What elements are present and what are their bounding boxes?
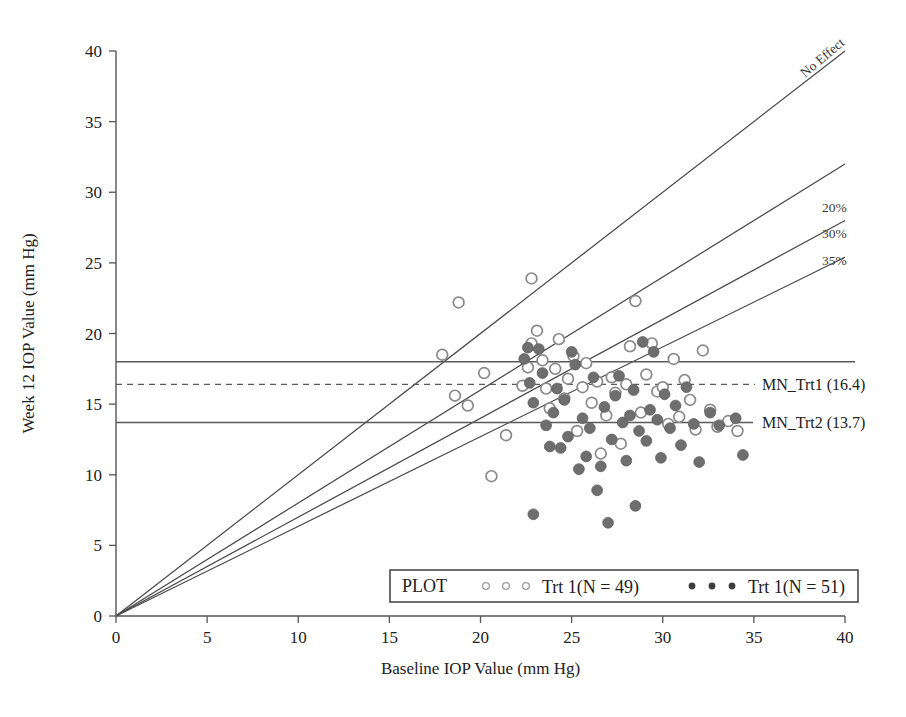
legend-marker-open (503, 583, 510, 590)
reference-line-label-reduction-35: 35% (822, 253, 847, 268)
y-tick-label: 25 (85, 254, 102, 273)
data-point-series-1 (595, 461, 606, 472)
y-tick-label: 40 (85, 42, 102, 61)
data-point-series-0 (630, 296, 641, 307)
data-point-series-1 (522, 342, 533, 353)
x-tick-label: 25 (563, 628, 580, 647)
data-point-series-0 (685, 394, 696, 405)
data-point-series-1 (637, 337, 648, 348)
data-point-series-0 (732, 426, 743, 437)
y-tick-label: 35 (85, 113, 102, 132)
data-point-series-1 (659, 389, 670, 400)
legend-marker-open (483, 583, 490, 590)
y-tick-label: 15 (85, 395, 102, 414)
data-point-series-1 (574, 464, 585, 475)
reference-line-no-effect (116, 51, 845, 616)
data-point-series-1 (584, 423, 595, 434)
data-point-series-1 (641, 435, 652, 446)
data-point-series-0 (532, 325, 543, 336)
legend-entry-label-0[interactable]: Trt 1(N = 49) (542, 577, 639, 598)
data-point-series-1 (599, 402, 610, 413)
data-point-series-0 (577, 382, 588, 393)
reference-line-label-reduction-30: 30% (822, 226, 847, 241)
data-point-series-1 (645, 404, 656, 415)
data-point-series-1 (528, 397, 539, 408)
data-point-series-1 (559, 394, 570, 405)
reference-line-label-reduction-20: 20% (822, 200, 847, 215)
data-point-series-1 (581, 451, 592, 462)
y-tick-label: 20 (85, 325, 102, 344)
legend-prefix: PLOT (402, 576, 447, 596)
data-point-series-1 (566, 346, 577, 357)
data-point-series-0 (674, 411, 685, 422)
data-point-series-1 (688, 419, 699, 430)
x-tick-label: 0 (112, 628, 121, 647)
y-tick-label: 0 (94, 607, 103, 626)
data-point-series-0 (668, 354, 679, 365)
data-point-series-0 (595, 448, 606, 459)
y-axis-title: Week 12 IOP Value (mm Hg) (19, 233, 38, 433)
data-point-series-1 (588, 372, 599, 383)
x-tick-label: 20 (472, 628, 489, 647)
legend-entry-label-1[interactable]: Trt 1(N = 51) (748, 577, 845, 598)
y-tick-label: 10 (85, 466, 102, 485)
data-point-series-0 (697, 345, 708, 356)
data-point-series-0 (462, 400, 473, 411)
data-point-series-1 (570, 359, 581, 370)
data-point-series-0 (553, 334, 564, 345)
x-tick-label: 5 (203, 628, 212, 647)
data-point-series-1 (630, 500, 641, 511)
data-point-series-1 (544, 441, 555, 452)
x-axis-title: Baseline IOP Value (mm Hg) (381, 659, 580, 678)
x-tick-label: 10 (290, 628, 307, 647)
data-point-series-1 (670, 400, 681, 411)
data-point-series-1 (606, 434, 617, 445)
data-point-series-1 (541, 420, 552, 431)
y-tick-label: 30 (85, 183, 102, 202)
data-point-series-0 (437, 349, 448, 360)
data-point-series-1 (621, 455, 632, 466)
data-point-series-1 (694, 457, 705, 468)
data-point-series-1 (528, 509, 539, 520)
y-tick-label: 5 (94, 536, 103, 555)
data-point-series-1 (614, 370, 625, 381)
data-point-series-1 (714, 420, 725, 431)
data-point-series-0 (526, 273, 537, 284)
data-point-series-1 (519, 354, 530, 365)
data-point-series-1 (681, 382, 692, 393)
data-point-series-0 (453, 297, 464, 308)
legend-marker-filled (709, 583, 716, 590)
data-point-series-1 (610, 390, 621, 401)
data-point-series-0 (581, 358, 592, 369)
data-point-series-0 (641, 369, 652, 380)
data-point-series-1 (537, 368, 548, 379)
legend-marker-filled (689, 583, 696, 590)
data-point-series-1 (676, 440, 687, 451)
data-point-series-1 (524, 378, 535, 389)
data-point-series-1 (705, 407, 716, 418)
data-point-series-0 (537, 355, 548, 366)
data-point-series-0 (501, 430, 512, 441)
data-point-series-1 (634, 426, 645, 437)
data-point-series-1 (563, 431, 574, 442)
data-point-series-1 (603, 517, 614, 528)
legend-marker-filled (729, 583, 736, 590)
data-point-series-1 (548, 407, 559, 418)
data-point-series-0 (450, 390, 461, 401)
data-point-series-1 (577, 413, 588, 424)
data-point-series-0 (586, 397, 597, 408)
reference-line-label-mean-trt1: MN_Trt1 (16.4) (762, 376, 865, 394)
data-point-series-1 (738, 450, 749, 461)
x-tick-label: 15 (381, 628, 398, 647)
data-point-series-1 (555, 443, 566, 454)
data-point-series-0 (550, 363, 561, 374)
reference-line-label-mean-trt2: MN_Trt2 (13.7) (762, 414, 865, 432)
data-point-series-1 (533, 344, 544, 355)
x-tick-label: 35 (745, 628, 762, 647)
reference-line-reduction-20 (116, 164, 845, 616)
data-point-series-1 (730, 413, 741, 424)
data-point-series-1 (665, 423, 676, 434)
data-point-series-0 (486, 471, 497, 482)
data-point-series-0 (625, 341, 636, 352)
legend-marker-open (523, 583, 530, 590)
